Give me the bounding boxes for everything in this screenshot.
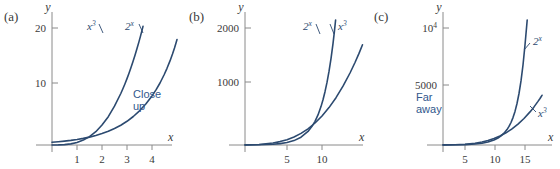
panel-a-annotation-line1: Close	[133, 88, 161, 100]
panel-b-x-axis-label: x	[358, 130, 365, 144]
panel-a-ytick-label-20: 20	[35, 22, 47, 34]
panel-c-curve-label-cubic: x3	[537, 106, 547, 119]
panel-b: (b) 2000 1000 5 10 y x 2x x3	[185, 0, 372, 169]
panel-a-x-axis-label: x	[167, 130, 174, 144]
panel-c-annotation-line2: away	[416, 103, 442, 115]
panel-c-y-axis-label: y	[435, 0, 442, 14]
panel-a-annotation: Close up	[133, 88, 161, 113]
panel-a-plot: 20 10 1 2 3 4 y x x3 2x	[0, 0, 187, 169]
panel-a-leader-cubic	[99, 24, 103, 33]
panel-c-annotation: Far away	[416, 91, 442, 116]
panel-b-ytick-label-2000: 2000	[217, 22, 240, 34]
panel-b-leader-exponential	[316, 24, 320, 34]
panel-b-curve-label-cubic: x3	[337, 19, 347, 32]
panel-b-label: (b)	[189, 9, 204, 25]
panel-c-xtick-label-5: 5	[462, 153, 468, 165]
panel-c-plot: 104 5000 5 10 15 y x 2x x3	[370, 0, 560, 169]
panel-c-curve-cubic	[443, 95, 542, 145]
figure-comparison-growth-rates: (a) 20 10 1 2 3 4 y x	[0, 0, 560, 169]
panel-b-y-axis-label: y	[237, 0, 244, 14]
panel-c-ytick-label-10000: 104	[422, 21, 437, 34]
panel-b-xtick-label-10: 10	[317, 153, 329, 165]
panel-b-leader-cubic	[330, 24, 334, 34]
panel-c-xtick-label-15: 15	[520, 153, 532, 165]
panel-c-curve-label-exponential: 2x	[533, 34, 543, 47]
panel-b-curve-label-exponential: 2x	[303, 19, 313, 32]
panel-a-xtick-label-4: 4	[149, 153, 155, 165]
panel-a-curve-label-exponential: 2x	[125, 19, 135, 32]
panel-c-xtick-label-10: 10	[490, 153, 502, 165]
panel-a-curve-label-cubic: x3	[86, 19, 96, 32]
panel-a-ytick-label-10: 10	[35, 77, 47, 89]
panel-b-plot: 2000 1000 5 10 y x 2x x3	[185, 0, 372, 169]
panel-c: (c) 104 5000 5 10 15 y x 2x x3 Far	[370, 0, 557, 169]
panel-a-label: (a)	[4, 9, 18, 25]
panel-a-xtick-label-1: 1	[74, 153, 80, 165]
panel-a-xtick-label-2: 2	[99, 153, 105, 165]
panel-b-xtick-label-5: 5	[284, 153, 290, 165]
panel-c-annotation-line1: Far	[416, 91, 442, 103]
panel-a: (a) 20 10 1 2 3 4 y x	[0, 0, 187, 169]
panel-a-curve-cubic	[52, 26, 143, 145]
panel-b-curve-cubic	[245, 45, 363, 145]
panel-a-y-axis-label: y	[44, 0, 51, 14]
panel-c-ytick-label-5000: 5000	[415, 79, 438, 91]
panel-c-label: (c)	[374, 9, 388, 25]
panel-c-x-axis-label: x	[547, 130, 554, 144]
panel-a-xtick-label-3: 3	[124, 153, 130, 165]
panel-b-curve-exponential	[245, 20, 336, 145]
panel-a-annotation-line2: up	[133, 100, 161, 112]
panel-b-ytick-label-1000: 1000	[217, 76, 240, 88]
